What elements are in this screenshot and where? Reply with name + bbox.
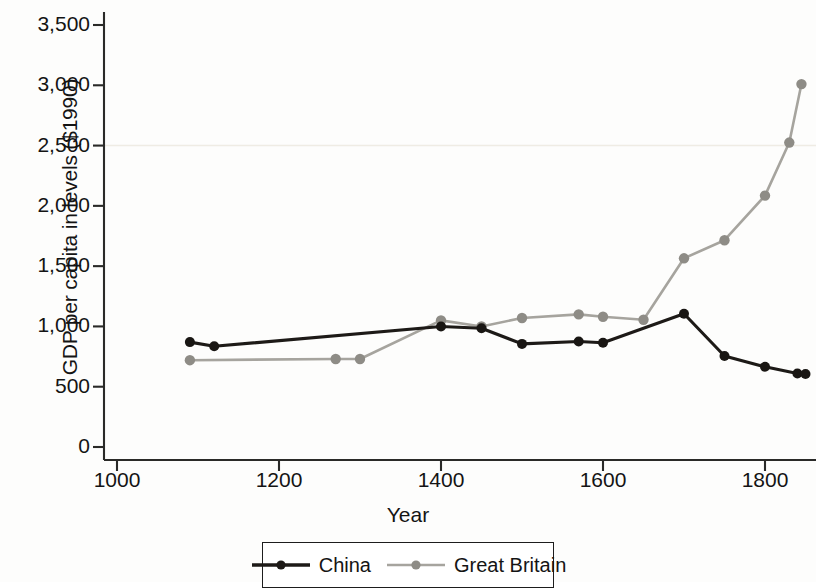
datapoint-china-1700 bbox=[679, 309, 689, 319]
chart-legend: China Great Britain bbox=[262, 542, 554, 588]
datapoint-china-1800 bbox=[760, 362, 770, 372]
datapoint-great-britain-1700 bbox=[679, 253, 689, 263]
legend-label-great-britain: Great Britain bbox=[454, 554, 566, 577]
legend-entry-great-britain: Great Britain bbox=[385, 554, 566, 577]
datapoint-china-1570 bbox=[574, 337, 584, 347]
datapoint-great-britain-1500 bbox=[517, 313, 527, 323]
datapoint-china-1850 bbox=[801, 369, 811, 379]
datapoint-great-britain-1845 bbox=[796, 79, 806, 89]
datapoint-great-britain-1750 bbox=[719, 235, 729, 245]
datapoint-great-britain-1090 bbox=[185, 355, 195, 365]
datapoint-great-britain-1600 bbox=[598, 312, 608, 322]
datapoint-china-1120 bbox=[209, 341, 219, 351]
datapoint-great-britain-1830 bbox=[784, 137, 794, 147]
datapoint-great-britain-1270 bbox=[331, 354, 341, 364]
datapoint-china-1500 bbox=[517, 339, 527, 349]
legend-entry-china: China bbox=[250, 554, 371, 577]
datapoint-great-britain-1800 bbox=[760, 190, 770, 200]
datapoint-china-1400 bbox=[436, 321, 446, 331]
datapoint-great-britain-1300 bbox=[355, 354, 365, 364]
datapoint-great-britain-1650 bbox=[638, 315, 648, 325]
datapoint-china-1750 bbox=[720, 351, 730, 361]
series-china bbox=[185, 309, 811, 379]
datapoint-china-1450 bbox=[477, 323, 487, 333]
axis-ticks bbox=[93, 25, 765, 471]
line-great-britain bbox=[190, 84, 802, 360]
legend-swatch-china-icon bbox=[250, 557, 312, 573]
axis-lines bbox=[104, 12, 816, 460]
series-great-britain bbox=[185, 79, 807, 366]
legend-swatch-great-britain-icon bbox=[385, 557, 447, 573]
datapoint-china-1090 bbox=[185, 337, 195, 347]
datapoint-china-1600 bbox=[598, 338, 608, 348]
datapoint-great-britain-1570 bbox=[574, 309, 584, 319]
legend-label-china: China bbox=[319, 554, 371, 577]
